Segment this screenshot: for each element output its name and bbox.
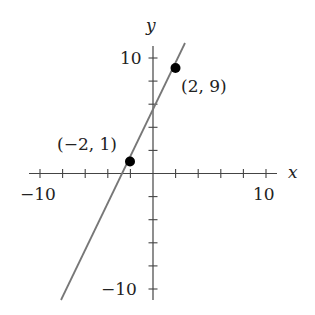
point-b-label: (2, 9) [181, 76, 227, 96]
x-max-label: 10 [253, 184, 275, 204]
x-axis-label: x [288, 162, 298, 182]
function-line [61, 43, 185, 300]
point-a [125, 157, 135, 167]
point-a-label: (−2, 1) [57, 134, 117, 154]
coordinate-plane: x y −10 10 10 −10 (−2, 1) (2, 9) [0, 0, 315, 315]
point-b [171, 63, 181, 73]
y-axis-label: y [145, 15, 156, 35]
y-max-label: 10 [120, 48, 142, 68]
x-min-label: −10 [20, 184, 56, 204]
y-min-label: −10 [101, 279, 137, 299]
